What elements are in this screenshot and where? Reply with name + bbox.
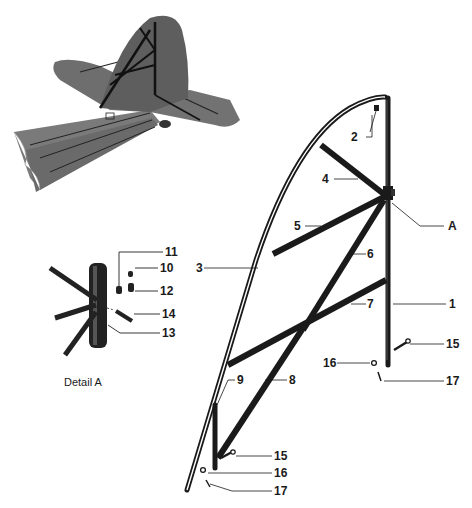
callout-16-left: 16 (274, 467, 287, 479)
callout-3: 3 (196, 262, 203, 274)
callout-17-left: 17 (274, 485, 287, 497)
callout-5: 5 (294, 220, 301, 232)
callout-13: 13 (162, 327, 175, 339)
callout-8: 8 (289, 374, 296, 386)
callout-1: 1 (449, 298, 456, 310)
callout-17-right: 17 (446, 375, 459, 387)
callout-7: 7 (367, 298, 374, 310)
callout-15-right: 15 (446, 338, 459, 350)
exploded-diagram (0, 0, 472, 508)
callout-10: 10 (160, 262, 173, 274)
callout-6: 6 (367, 248, 374, 260)
tail-assembly-overview (14, 16, 240, 192)
callout-a: A (448, 220, 457, 232)
detail-a-caption: Detail A (64, 376, 102, 388)
detail-a-illustration (50, 252, 163, 355)
callout-16-right: 16 (323, 357, 336, 369)
callout-12: 12 (160, 285, 173, 297)
rudder-frame (187, 97, 446, 491)
callout-2: 2 (351, 131, 358, 143)
callout-9: 9 (237, 374, 244, 386)
callout-4: 4 (322, 173, 329, 185)
callout-11: 11 (165, 246, 178, 258)
callout-15-left: 15 (274, 450, 287, 462)
callout-14: 14 (162, 308, 175, 320)
